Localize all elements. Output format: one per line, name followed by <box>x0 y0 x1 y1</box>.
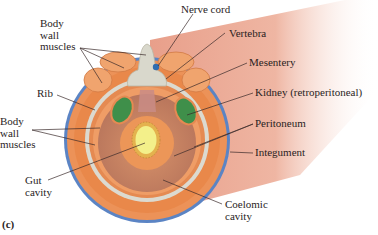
anatomy-diagram: Body wall muscles Nerve cord Vertebra Me… <box>0 0 378 235</box>
panel-label: (c) <box>2 219 14 231</box>
gut-lumen <box>136 126 157 154</box>
label-body-wall-muscles-bottom: Body wall muscles <box>0 116 35 151</box>
label-mesentery: Mesentery <box>249 57 295 69</box>
label-body-wall-muscles-top: Body wall muscles <box>40 18 75 53</box>
label-peritoneum: Peritoneum <box>255 118 306 130</box>
label-kidney: Kidney (retroperitoneal) <box>255 87 362 99</box>
label-coelomic-cavity: Coelomic cavity <box>225 199 268 222</box>
label-gut-cavity: Gut cavity <box>25 175 52 198</box>
label-integument: Integument <box>255 147 305 159</box>
label-vertebra: Vertebra <box>229 28 266 40</box>
label-rib: Rib <box>37 88 53 100</box>
label-nerve-cord: Nerve cord <box>181 4 230 16</box>
nerve-cord <box>153 64 159 70</box>
mesentery <box>138 90 156 112</box>
